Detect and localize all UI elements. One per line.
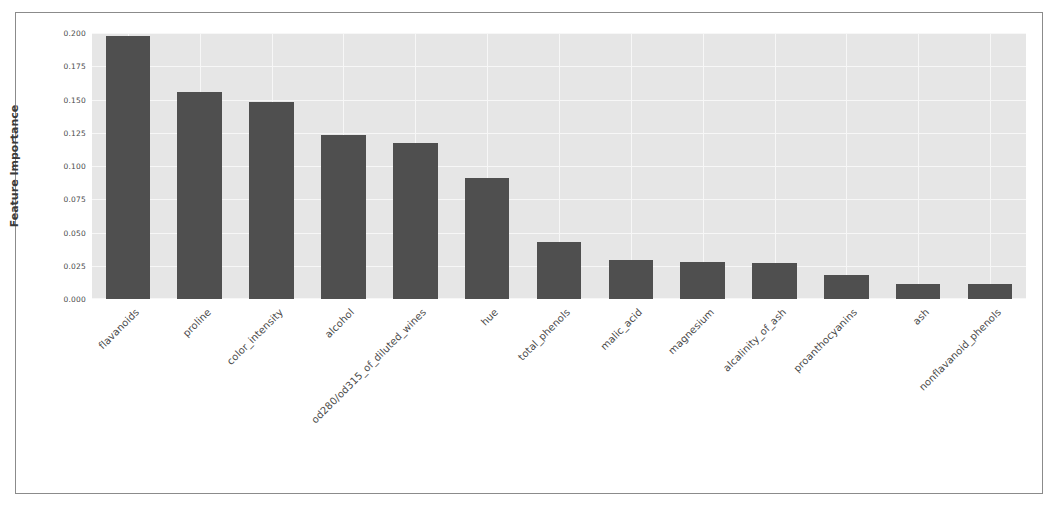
bar xyxy=(106,36,151,299)
bar xyxy=(393,143,438,299)
x-axis-tick-label: alcohol xyxy=(322,305,356,339)
gridline-vertical xyxy=(846,33,847,299)
bar xyxy=(609,260,654,299)
bar xyxy=(752,263,797,299)
x-axis-tick-label: ash xyxy=(910,305,930,325)
bar xyxy=(249,102,294,299)
y-axis-tick-label: 0.050 xyxy=(42,228,86,237)
y-axis-tick-label: 0.025 xyxy=(42,261,86,270)
gridline-vertical xyxy=(990,33,991,299)
y-axis-tick-label: 0.000 xyxy=(42,295,86,304)
bar xyxy=(537,242,582,299)
bar xyxy=(177,92,222,299)
y-axis-tick-label: 0.125 xyxy=(42,128,86,137)
bar xyxy=(680,262,725,299)
y-axis-tick-label: 0.150 xyxy=(42,95,86,104)
bar xyxy=(968,284,1013,299)
x-axis-tick-label: malic_acid xyxy=(597,305,643,351)
figure-frame: Feature Importance 0.0000.0250.0500.0750… xyxy=(15,12,1043,494)
y-axis-tick-label: 0.075 xyxy=(42,195,86,204)
bar xyxy=(465,178,510,299)
x-axis-tick-label: flavanoids xyxy=(95,305,140,350)
y-axis-tick-label: 0.175 xyxy=(42,62,86,71)
gridline-vertical xyxy=(918,33,919,299)
x-axis-tick-label: magnesium xyxy=(664,305,714,355)
x-axis-tick-label: hue xyxy=(478,305,499,326)
y-axis-title: Feature Importance xyxy=(8,105,21,228)
x-axis-tick-label: color_intensity xyxy=(223,305,283,365)
gridline-vertical xyxy=(703,33,704,299)
x-axis-tick-label: od280/od315_of_diluted_wines xyxy=(308,305,427,424)
y-axis-tick-label: 0.100 xyxy=(42,162,86,171)
bar xyxy=(896,284,941,299)
bar xyxy=(824,275,869,299)
bar xyxy=(321,135,366,299)
y-axis-tick-label: 0.200 xyxy=(42,29,86,38)
x-axis-tick-label: proline xyxy=(179,305,212,338)
plot-area xyxy=(92,33,1026,299)
gridline-vertical xyxy=(775,33,776,299)
x-axis-tick-label: total_phenols xyxy=(515,305,571,361)
x-axis-tick-label: alcalinity_of_ash xyxy=(719,305,786,372)
x-axis-tick-label: nonflavanoid_phenols xyxy=(915,305,1001,391)
gridline-vertical xyxy=(631,33,632,299)
x-axis-tick-label: proanthocyanins xyxy=(790,305,858,373)
